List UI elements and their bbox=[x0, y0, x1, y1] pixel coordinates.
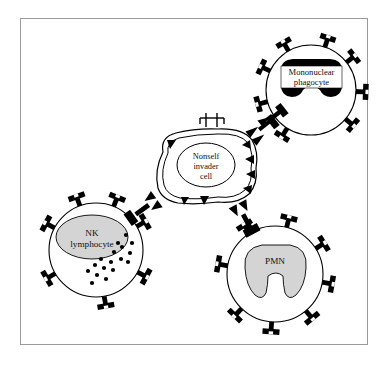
granule bbox=[126, 260, 130, 264]
granule bbox=[99, 257, 103, 261]
granule bbox=[116, 241, 120, 245]
granule bbox=[109, 260, 113, 264]
nk-label-line2: lymphocyte bbox=[70, 239, 113, 249]
receptor-notch bbox=[365, 90, 368, 95]
receptor-notch bbox=[269, 331, 274, 334]
granule bbox=[95, 273, 99, 277]
invader-label-line1: Nonself bbox=[193, 152, 220, 161]
pmn-membrane bbox=[227, 226, 323, 322]
granule bbox=[90, 281, 94, 285]
granule bbox=[111, 268, 115, 272]
invader-label-line2: invader bbox=[193, 162, 218, 171]
invader-label-line3: cell bbox=[200, 172, 213, 181]
granule bbox=[102, 266, 106, 270]
granule bbox=[124, 233, 128, 237]
granule bbox=[86, 269, 90, 273]
phagocyte-label-line1: Mononuclear bbox=[289, 67, 335, 77]
granule bbox=[120, 245, 124, 249]
granule bbox=[112, 250, 116, 254]
figure-root: Mononuclear phagocyte bbox=[0, 0, 388, 365]
granule bbox=[130, 241, 134, 245]
phagocyte-label-line2: phagocyte bbox=[294, 77, 330, 87]
granule bbox=[104, 277, 108, 281]
granule bbox=[128, 251, 132, 255]
nk-label-line1: NK bbox=[85, 228, 99, 238]
immune-cell-diagram: Mononuclear phagocyte bbox=[0, 0, 388, 365]
granule bbox=[119, 257, 123, 261]
granule bbox=[93, 263, 97, 267]
pmn-label: PMN bbox=[265, 256, 285, 266]
phagocyte-membrane bbox=[266, 45, 356, 135]
